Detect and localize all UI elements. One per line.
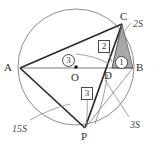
point-label-a: A [4, 62, 12, 73]
point-label-d: D [104, 70, 112, 81]
ratio-marker-boxed-3: 3 [81, 87, 93, 100]
area-label-2s: 2S [133, 19, 143, 29]
point-label-c: C [120, 11, 127, 22]
ratio-marker-boxed-2: 2 [98, 40, 110, 53]
point-label-o: O [71, 72, 79, 83]
geometry-figure: A B C D P O 2S 3S 15S 1 3 2 3 [0, 0, 159, 152]
ratio-marker-circled-1: 1 [115, 56, 128, 69]
area-label-15s: 15S [12, 124, 27, 134]
point-label-p: P [81, 131, 87, 142]
area-label-3s: 3S [130, 120, 140, 130]
leader-15s [30, 104, 70, 120]
ratio-marker-circled-3: 3 [62, 54, 75, 67]
leader-ratio-3 [76, 54, 109, 64]
center-point-dot [74, 65, 78, 69]
point-label-b: B [136, 62, 143, 73]
